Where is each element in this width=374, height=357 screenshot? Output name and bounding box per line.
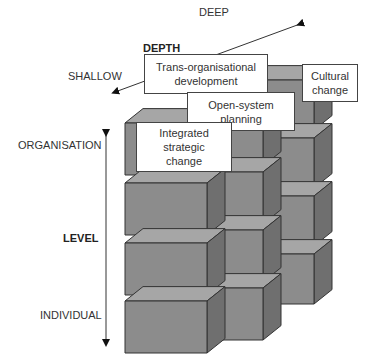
intervention-depth-level-diagram: DEEP DEPTH SHALLOW ORGANISATION LEVEL IN… — [0, 0, 374, 357]
shallow-label: SHALLOW — [68, 70, 122, 82]
level-title: LEVEL — [63, 232, 98, 244]
organisation-label: ORGANISATION — [18, 139, 102, 151]
box-integrated-strategic-change: Integrated strategic change — [136, 122, 232, 172]
box-cultural-change: Cultural change — [302, 64, 358, 102]
box-trans-organisational-development: Trans-organisational development — [144, 54, 268, 94]
deep-label: DEEP — [199, 6, 229, 18]
individual-label: INDIVIDUAL — [40, 309, 102, 321]
depth-title: DEPTH — [143, 42, 180, 54]
